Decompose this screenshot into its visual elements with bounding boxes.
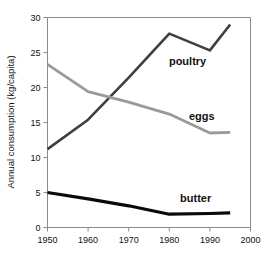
x-tick-label: 2000 [240,235,260,245]
x-tick-label: 1970 [119,235,139,245]
x-tick-label: 1980 [159,235,179,245]
x-tick-label: 1960 [78,235,98,245]
y-axis-ticks: 051015202530 [30,13,47,233]
y-axis-title: Annual consumption (kg/capita) [5,55,16,188]
series-label-butter: butter [180,192,212,204]
y-tick-label: 10 [30,153,40,163]
y-tick-label: 15 [30,118,40,128]
series-labels: poultryeggsbutter [169,55,215,204]
y-tick-label: 25 [30,48,40,58]
y-tick-label: 20 [30,83,40,93]
y-tick-label: 0 [35,223,40,233]
x-tick-label: 1990 [200,235,220,245]
chart-container: 051015202530 195019601970198019902000 po… [0,0,272,255]
series-line-eggs [48,64,231,133]
line-chart: 051015202530 195019601970198019902000 po… [0,0,272,255]
x-tick-label: 1950 [37,235,57,245]
x-axis-ticks: 195019601970198019902000 [37,228,260,245]
series-label-eggs: eggs [189,110,215,122]
y-tick-label: 30 [30,13,40,23]
series-label-poultry: poultry [169,55,207,67]
y-tick-label: 5 [35,188,40,198]
